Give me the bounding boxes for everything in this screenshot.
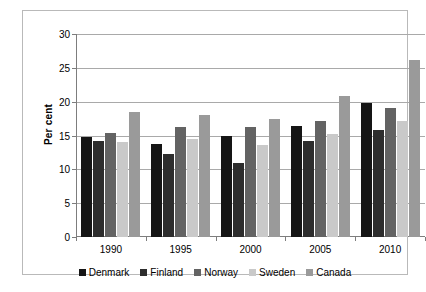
x-tick-mark xyxy=(146,237,147,241)
x-tick-label: 2000 xyxy=(239,244,261,255)
bar-norway-2005 xyxy=(315,121,326,237)
bar-denmark-2000 xyxy=(221,136,232,238)
bar-canada-2010 xyxy=(409,60,420,237)
x-tick-mark xyxy=(216,237,217,241)
bar-norway-1995 xyxy=(175,127,186,237)
x-tick-mark xyxy=(76,237,77,241)
legend-swatch-icon xyxy=(79,269,86,276)
bar-canada-1995 xyxy=(199,115,210,237)
bar-norway-2000 xyxy=(245,127,256,237)
y-tick-label: 25 xyxy=(59,62,70,73)
x-tick-mark xyxy=(285,237,286,241)
bar-norway-1990 xyxy=(105,133,116,237)
y-axis-title: Per cent xyxy=(43,80,54,170)
bar-canada-1990 xyxy=(129,112,140,237)
bar-group-1995 xyxy=(146,34,216,237)
bar-denmark-2005 xyxy=(291,126,302,237)
bar-group-1990 xyxy=(76,34,146,237)
y-tick-label: 5 xyxy=(64,198,70,209)
bar-denmark-1990 xyxy=(81,137,92,237)
legend-label: Canada xyxy=(316,267,351,278)
bar-finland-1995 xyxy=(163,154,174,237)
bar-group-2000 xyxy=(216,34,286,237)
bar-finland-2010 xyxy=(373,130,384,237)
bar-chart-figure: Per cent 051015202530 199019952000200520… xyxy=(0,0,426,292)
x-tick-label: 1990 xyxy=(100,244,122,255)
bar-denmark-2010 xyxy=(361,103,372,237)
x-tick-label: 2010 xyxy=(379,244,401,255)
y-tick-label: 10 xyxy=(59,164,70,175)
bar-sweden-1990 xyxy=(117,142,128,237)
legend-label: Denmark xyxy=(89,267,130,278)
y-tick-label: 15 xyxy=(59,130,70,141)
legend-item-finland[interactable]: Finland xyxy=(140,267,183,278)
chart-legend: DenmarkFinlandNorwaySwedenCanada xyxy=(23,267,407,278)
bar-group-2005 xyxy=(285,34,355,237)
legend-swatch-icon xyxy=(249,269,256,276)
bar-group-2010 xyxy=(355,34,425,237)
bar-norway-2010 xyxy=(385,108,396,237)
x-tick-label: 1995 xyxy=(170,244,192,255)
legend-label: Finland xyxy=(150,267,183,278)
legend-swatch-icon xyxy=(194,269,201,276)
legend-item-norway[interactable]: Norway xyxy=(194,267,238,278)
y-tick-label: 20 xyxy=(59,96,70,107)
legend-swatch-icon xyxy=(306,269,313,276)
plot-area: 051015202530 19901995200020052010 xyxy=(76,34,425,237)
legend-item-denmark[interactable]: Denmark xyxy=(79,267,130,278)
legend-label: Sweden xyxy=(259,267,295,278)
bar-sweden-2005 xyxy=(327,134,338,237)
bar-sweden-1995 xyxy=(187,139,198,237)
legend-item-canada[interactable]: Canada xyxy=(306,267,351,278)
bar-sweden-2010 xyxy=(397,121,408,237)
bar-series-layer xyxy=(76,34,425,237)
x-tick-label: 2005 xyxy=(309,244,331,255)
legend-label: Norway xyxy=(204,267,238,278)
bar-canada-2000 xyxy=(269,119,280,237)
x-tick-mark xyxy=(355,237,356,241)
bar-finland-2000 xyxy=(233,163,244,237)
bar-denmark-1995 xyxy=(151,144,162,237)
y-tick-label: 30 xyxy=(59,29,70,40)
legend-item-sweden[interactable]: Sweden xyxy=(249,267,295,278)
bar-finland-1990 xyxy=(93,141,104,237)
bar-finland-2005 xyxy=(303,141,314,237)
y-tick-label: 0 xyxy=(64,232,70,243)
bar-sweden-2000 xyxy=(257,145,268,237)
chart-frame: Per cent 051015202530 199019952000200520… xyxy=(22,10,408,275)
legend-swatch-icon xyxy=(140,269,147,276)
bar-canada-2005 xyxy=(339,96,350,237)
